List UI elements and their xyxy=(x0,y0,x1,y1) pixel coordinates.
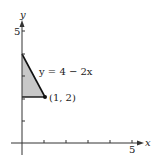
curve-label: y = 4 − 2x xyxy=(38,66,93,77)
y-tick-label-5: 5 xyxy=(14,26,20,37)
x-tick-label-5: 5 xyxy=(129,144,135,155)
coordinate-diagram: y 5 x 5 y = 4 − 2x (1, 2) xyxy=(0,0,153,161)
x-axis-label: x xyxy=(145,137,151,148)
x-axis-arrow-icon xyxy=(137,141,144,146)
point-1-2 xyxy=(43,95,47,99)
y-axis-label: y xyxy=(19,9,26,20)
point-label: (1, 2) xyxy=(49,92,76,103)
